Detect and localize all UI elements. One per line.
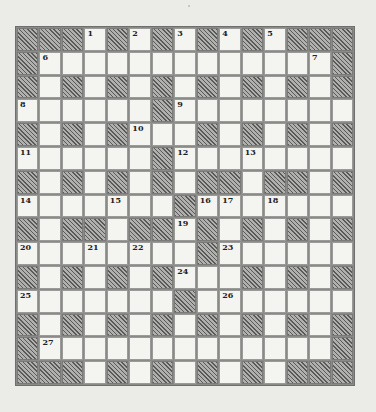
answer-cell[interactable] bbox=[84, 147, 105, 170]
answer-cell[interactable]: 21 bbox=[84, 242, 105, 265]
answer-cell[interactable] bbox=[84, 123, 105, 146]
answer-cell[interactable] bbox=[84, 361, 105, 384]
answer-cell[interactable] bbox=[264, 76, 285, 99]
answer-cell[interactable] bbox=[264, 52, 285, 75]
answer-cell[interactable] bbox=[242, 337, 263, 360]
answer-cell[interactable] bbox=[39, 171, 60, 194]
answer-cell[interactable] bbox=[219, 99, 240, 122]
answer-cell[interactable]: 22 bbox=[129, 242, 150, 265]
answer-cell[interactable]: 24 bbox=[174, 266, 195, 289]
answer-cell[interactable] bbox=[287, 147, 308, 170]
answer-cell[interactable] bbox=[242, 195, 263, 218]
answer-cell[interactable] bbox=[129, 361, 150, 384]
answer-cell[interactable] bbox=[174, 52, 195, 75]
answer-cell[interactable] bbox=[152, 52, 173, 75]
answer-cell[interactable] bbox=[174, 171, 195, 194]
answer-cell[interactable] bbox=[174, 361, 195, 384]
answer-cell[interactable] bbox=[84, 290, 105, 313]
answer-cell[interactable] bbox=[264, 99, 285, 122]
answer-cell[interactable]: 6 bbox=[39, 52, 60, 75]
answer-cell[interactable]: 15 bbox=[107, 195, 128, 218]
answer-cell[interactable] bbox=[62, 195, 83, 218]
answer-cell[interactable] bbox=[264, 147, 285, 170]
answer-cell[interactable]: 11 bbox=[17, 147, 38, 170]
answer-cell[interactable] bbox=[62, 147, 83, 170]
answer-cell[interactable]: 2 bbox=[129, 28, 150, 51]
answer-cell[interactable] bbox=[264, 266, 285, 289]
answer-cell[interactable] bbox=[62, 242, 83, 265]
answer-cell[interactable] bbox=[264, 361, 285, 384]
answer-cell[interactable]: 3 bbox=[174, 28, 195, 51]
answer-cell[interactable] bbox=[287, 99, 308, 122]
answer-cell[interactable] bbox=[39, 123, 60, 146]
answer-cell[interactable]: 12 bbox=[174, 147, 195, 170]
answer-cell[interactable] bbox=[264, 123, 285, 146]
answer-cell[interactable] bbox=[242, 290, 263, 313]
answer-cell[interactable] bbox=[129, 147, 150, 170]
answer-cell[interactable] bbox=[309, 337, 330, 360]
answer-cell[interactable]: 4 bbox=[219, 28, 240, 51]
answer-cell[interactable] bbox=[242, 99, 263, 122]
answer-cell[interactable] bbox=[84, 266, 105, 289]
answer-cell[interactable] bbox=[107, 337, 128, 360]
answer-cell[interactable] bbox=[107, 99, 128, 122]
answer-cell[interactable] bbox=[174, 337, 195, 360]
answer-cell[interactable]: 20 bbox=[17, 242, 38, 265]
answer-cell[interactable]: 25 bbox=[17, 290, 38, 313]
answer-cell[interactable] bbox=[129, 171, 150, 194]
answer-cell[interactable]: 16 bbox=[197, 195, 218, 218]
answer-cell[interactable]: 8 bbox=[17, 99, 38, 122]
answer-cell[interactable] bbox=[309, 123, 330, 146]
answer-cell[interactable] bbox=[62, 290, 83, 313]
answer-cell[interactable]: 14 bbox=[17, 195, 38, 218]
answer-cell[interactable] bbox=[84, 195, 105, 218]
answer-cell[interactable] bbox=[219, 361, 240, 384]
answer-cell[interactable]: 1 bbox=[84, 28, 105, 51]
answer-cell[interactable] bbox=[129, 52, 150, 75]
answer-cell[interactable] bbox=[287, 52, 308, 75]
answer-cell[interactable] bbox=[219, 123, 240, 146]
answer-cell[interactable] bbox=[219, 266, 240, 289]
answer-cell[interactable] bbox=[332, 99, 353, 122]
answer-cell[interactable] bbox=[197, 52, 218, 75]
answer-cell[interactable] bbox=[309, 314, 330, 337]
answer-cell[interactable] bbox=[84, 337, 105, 360]
answer-cell[interactable] bbox=[197, 266, 218, 289]
answer-cell[interactable] bbox=[107, 52, 128, 75]
answer-cell[interactable] bbox=[309, 171, 330, 194]
answer-cell[interactable] bbox=[39, 266, 60, 289]
answer-cell[interactable] bbox=[129, 337, 150, 360]
answer-cell[interactable] bbox=[107, 290, 128, 313]
answer-cell[interactable] bbox=[197, 290, 218, 313]
answer-cell[interactable]: 7 bbox=[309, 52, 330, 75]
answer-cell[interactable] bbox=[309, 99, 330, 122]
answer-cell[interactable] bbox=[62, 99, 83, 122]
answer-cell[interactable] bbox=[129, 266, 150, 289]
answer-cell[interactable]: 26 bbox=[219, 290, 240, 313]
answer-cell[interactable] bbox=[242, 242, 263, 265]
answer-cell[interactable] bbox=[174, 76, 195, 99]
answer-cell[interactable] bbox=[39, 147, 60, 170]
answer-cell[interactable] bbox=[264, 337, 285, 360]
answer-cell[interactable] bbox=[84, 52, 105, 75]
answer-cell[interactable] bbox=[219, 337, 240, 360]
answer-cell[interactable] bbox=[62, 337, 83, 360]
answer-cell[interactable] bbox=[84, 99, 105, 122]
answer-cell[interactable] bbox=[84, 314, 105, 337]
answer-cell[interactable] bbox=[332, 147, 353, 170]
answer-cell[interactable] bbox=[107, 218, 128, 241]
answer-cell[interactable] bbox=[219, 314, 240, 337]
answer-cell[interactable] bbox=[129, 314, 150, 337]
answer-cell[interactable] bbox=[332, 242, 353, 265]
answer-cell[interactable] bbox=[174, 123, 195, 146]
answer-cell[interactable] bbox=[152, 123, 173, 146]
answer-cell[interactable] bbox=[129, 99, 150, 122]
answer-cell[interactable] bbox=[219, 147, 240, 170]
answer-cell[interactable]: 23 bbox=[219, 242, 240, 265]
answer-cell[interactable] bbox=[39, 218, 60, 241]
answer-cell[interactable] bbox=[152, 242, 173, 265]
answer-cell[interactable]: 19 bbox=[174, 218, 195, 241]
answer-cell[interactable] bbox=[197, 147, 218, 170]
answer-cell[interactable] bbox=[152, 337, 173, 360]
answer-cell[interactable]: 5 bbox=[264, 28, 285, 51]
